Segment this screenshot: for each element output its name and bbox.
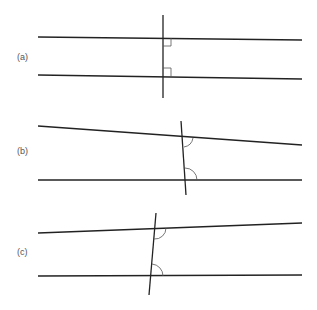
transversal-b bbox=[181, 121, 186, 195]
panel-label-a: (a) bbox=[17, 52, 28, 62]
line-c1 bbox=[38, 223, 302, 233]
angle-arc-b1 bbox=[184, 138, 193, 147]
transversal-c bbox=[149, 213, 156, 295]
line-a2 bbox=[38, 75, 302, 79]
line-a1 bbox=[38, 37, 302, 40]
line-c2 bbox=[38, 275, 302, 276]
diagram-canvas bbox=[0, 0, 317, 310]
panel-b bbox=[38, 121, 302, 195]
panel-label-b: (b) bbox=[17, 146, 28, 156]
right-angle-mark-a2 bbox=[163, 68, 171, 77]
angle-arc-b2 bbox=[185, 168, 197, 180]
angle-arc-c2 bbox=[152, 264, 163, 276]
panel-label-c: (c) bbox=[17, 247, 28, 257]
line-b1 bbox=[38, 126, 302, 145]
right-angle-mark-a1 bbox=[163, 38, 171, 46]
angle-arc-c1 bbox=[154, 228, 166, 239]
panel-a bbox=[38, 15, 302, 98]
panel-c bbox=[38, 213, 302, 295]
